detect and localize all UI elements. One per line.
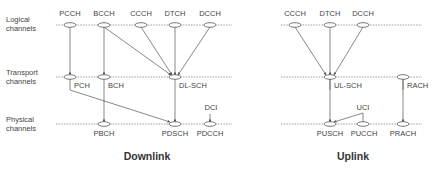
svg-text:PCCH: PCCH [59,9,80,18]
dci-label: DCI [205,103,218,112]
uplink-physical-nodes: PUSCH PUCCH PRACH UCI [317,103,416,138]
node-ul-dtch [324,23,336,28]
svg-text:Logical: Logical [6,15,30,24]
node-dtch [169,23,181,28]
svg-text:PCH: PCH [74,81,90,90]
node-pbch [98,122,110,127]
svg-text:DCCH: DCCH [199,9,221,18]
node-pusch [324,122,336,127]
node-bcch [98,23,110,28]
svg-text:CCCH: CCCH [284,9,306,18]
node-pdcch [204,122,216,127]
layer-label-physical: Physical channels [6,115,36,133]
svg-text:PBCH: PBCH [94,129,115,138]
svg-text:PDCCH: PDCCH [197,129,224,138]
svg-text:BCCH: BCCH [93,9,114,18]
downlink-physical-nodes: PBCH PDSCH PDCCH DCI [94,103,224,138]
node-pdsch [169,122,181,127]
svg-text:CCCH: CCCH [130,9,152,18]
svg-text:PUCCH: PUCCH [351,129,378,138]
svg-text:RACH: RACH [407,81,428,90]
node-rach [397,75,409,80]
node-pucch [357,122,369,127]
node-ul-ccch [289,23,301,28]
layer-label-logical: Logical channels [6,15,36,33]
svg-text:UL-SCH: UL-SCH [334,81,362,90]
downlink-logical-nodes: PCCH BCCH CCCH DTCH DCCH [59,9,220,27]
svg-text:BCH: BCH [108,81,124,90]
layer-label-transport: Transport channels [6,68,39,86]
node-ul-dcch [357,23,369,28]
uplink-edges [295,27,403,122]
node-bch [98,75,110,80]
svg-text:DTCH: DTCH [320,9,341,18]
uci-label: UCI [357,103,370,112]
svg-text:Transport: Transport [6,68,39,77]
node-pcch [64,23,76,28]
svg-text:PDSCH: PDSCH [162,129,188,138]
svg-text:channels: channels [6,77,36,86]
uplink-title: Uplink [337,150,369,162]
svg-text:DTCH: DTCH [165,9,186,18]
node-ul-sch [324,75,336,80]
svg-text:channels: channels [6,124,36,133]
svg-text:channels: channels [6,24,36,33]
node-prach [397,122,409,127]
node-dcch [204,23,216,28]
svg-text:PRACH: PRACH [390,129,416,138]
downlink-edges [70,27,210,122]
node-dl-sch [169,75,181,80]
svg-text:DL-SCH: DL-SCH [179,81,207,90]
svg-text:Physical: Physical [6,115,34,124]
svg-text:DCCH: DCCH [352,9,374,18]
uplink-logical-nodes: CCCH DTCH DCCH [284,9,374,27]
node-ccch [135,23,147,28]
channel-mapping-diagram: Logical channels Transport channels Phys… [0,0,433,169]
svg-text:PUSCH: PUSCH [317,129,343,138]
node-pch [64,75,76,80]
downlink-title: Downlink [124,150,171,162]
